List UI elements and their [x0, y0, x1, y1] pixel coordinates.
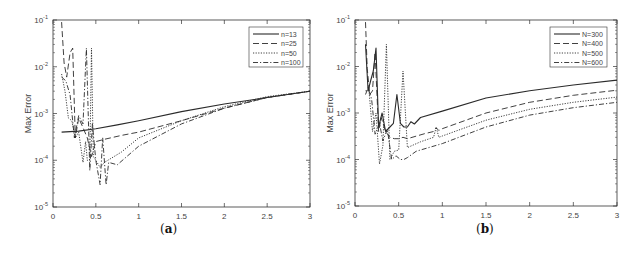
caption-b: (b)	[476, 222, 494, 236]
y-tick-label: 10-2	[336, 61, 350, 72]
y-tick-label: 10-3	[336, 107, 350, 118]
legend-label: N=500	[582, 50, 603, 57]
y-axis-label: Max Error	[325, 93, 335, 133]
x-tick-label: 1.5	[480, 211, 492, 220]
x-tick-label: 2.5	[568, 211, 580, 220]
x-tick-label: 2	[527, 211, 532, 220]
legend-label: N=400	[582, 40, 603, 47]
x-tick-label: 3	[308, 212, 313, 220]
x-tick-label: 0.5	[90, 212, 102, 220]
y-axis-label: Max Error	[23, 94, 33, 134]
x-tick-label: 1	[136, 212, 141, 220]
y-tick-label: 10-1	[336, 14, 350, 25]
chart-panel-b: 10-510-410-310-210-100.511.522.53Shape P…	[320, 0, 641, 220]
x-tick-label: 3	[615, 211, 620, 220]
y-tick-label: 10-5	[34, 201, 48, 212]
x-tick-label: 2	[222, 212, 227, 220]
line-chart-b: 10-510-410-310-210-100.511.522.53Shape P…	[320, 0, 641, 220]
y-tick-label: 10-2	[34, 61, 48, 72]
x-tick-label: 2.5	[262, 212, 274, 220]
chart-panel-a: 10-510-410-310-210-100.511.522.53Shape P…	[0, 0, 320, 220]
caption-b-letter: b	[481, 222, 489, 236]
line-chart-a: 10-510-410-310-210-100.511.522.53Shape P…	[0, 0, 320, 220]
x-tick-label: 0	[51, 212, 56, 220]
y-tick-label: 10-4	[336, 154, 350, 165]
legend-label: n=25	[281, 40, 297, 47]
x-tick-label: 0.5	[393, 211, 405, 220]
x-tick-label: 0	[353, 211, 358, 220]
x-tick-label: 1.5	[176, 212, 188, 220]
caption-a: (a)	[160, 222, 177, 236]
y-tick-label: 10-3	[34, 108, 48, 119]
x-tick-label: 1	[440, 211, 445, 220]
y-tick-label: 10-4	[34, 154, 48, 165]
legend: N=300N=400N=500N=600	[550, 27, 607, 67]
legend: n=13n=25n=50n=100	[249, 27, 303, 67]
legend-label: n=13	[281, 31, 297, 38]
y-tick-label: 10-1	[34, 14, 48, 25]
legend-label: N=300	[582, 31, 603, 38]
legend-label: n=100	[281, 59, 301, 66]
legend-label: N=600	[582, 59, 603, 66]
y-tick-label: 10-5	[336, 200, 350, 211]
legend-label: n=50	[281, 50, 297, 57]
